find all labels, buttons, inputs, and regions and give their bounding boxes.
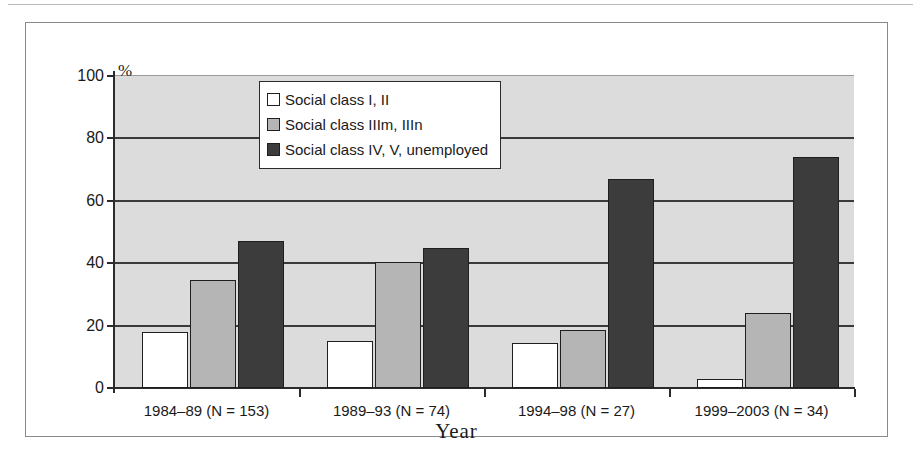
- chart-legend: Social class I, IISocial class IIIm, III…: [259, 81, 501, 169]
- y-tick-mark-0: [107, 387, 114, 389]
- x-group-label-0: 1984–89 (N = 153): [114, 402, 299, 419]
- y-tick-label-40: 40: [62, 255, 104, 271]
- gridline-100: [114, 75, 854, 76]
- bar-g0-s2: [238, 241, 284, 388]
- y-tick-mark-100: [107, 75, 114, 77]
- bar-g3-s0: [697, 379, 743, 388]
- bar-g1-s0: [327, 341, 373, 388]
- bar-g1-s1: [375, 262, 421, 388]
- bar-g3-s1: [745, 313, 791, 388]
- x-group-label-3: 1999–2003 (N = 34): [669, 402, 854, 419]
- swatch-white-icon: [267, 93, 280, 106]
- bar-g1-s2: [423, 248, 469, 388]
- y-tick-label-wrap-40: 40: [46, 255, 104, 271]
- y-tick-mark-80: [107, 137, 114, 139]
- legend-row-1: Social class IIIm, IIIn: [267, 112, 493, 137]
- legend-row-0: Social class I, II: [267, 87, 493, 112]
- x-axis-title: Year: [26, 419, 887, 444]
- y-tick-mark-40: [107, 262, 114, 264]
- legend-row-2: Social class IV, V, unemployed: [267, 137, 493, 162]
- swatch-dark-icon: [267, 143, 280, 156]
- y-tick-label-wrap-80: 80: [46, 130, 104, 146]
- bar-g2-s1: [560, 330, 606, 388]
- x-tick-2: [484, 389, 486, 397]
- gridline-40: [114, 262, 854, 264]
- x-tick-1: [299, 389, 301, 397]
- bar-g0-s0: [142, 332, 188, 388]
- swatch-gray-icon: [267, 118, 280, 131]
- legend-label-2: Social class IV, V, unemployed: [285, 141, 488, 158]
- y-tick-label-20: 20: [62, 318, 104, 334]
- x-tick-3: [669, 389, 671, 397]
- y-tick-label-100: 100: [62, 68, 104, 84]
- y-tick-label-0: 0: [62, 380, 104, 396]
- y-tick-label-wrap-60: 60: [46, 193, 104, 209]
- figure-frame: % 100806040200 1984–89 (N = 153)1989–93 …: [25, 22, 888, 437]
- x-group-label-1: 1989–93 (N = 74): [299, 402, 484, 419]
- legend-label-0: Social class I, II: [285, 91, 389, 108]
- gridline-60: [114, 200, 854, 202]
- y-tick-label-wrap-20: 20: [46, 318, 104, 334]
- bar-g2-s2: [608, 179, 654, 388]
- x-group-label-2: 1994–98 (N = 27): [484, 402, 669, 419]
- y-axis-unit-label: %: [118, 61, 132, 81]
- y-tick-label-wrap-0: 0: [46, 380, 104, 396]
- legend-label-1: Social class IIIm, IIIn: [285, 116, 423, 133]
- y-tick-label-60: 60: [62, 193, 104, 209]
- figure-page: % 100806040200 1984–89 (N = 153)1989–93 …: [0, 0, 923, 459]
- y-tick-label-wrap-100: 100: [46, 68, 104, 84]
- bar-g2-s0: [512, 343, 558, 388]
- y-tick-mark-20: [107, 325, 114, 327]
- y-tick-label-80: 80: [62, 130, 104, 146]
- bar-g3-s2: [793, 157, 839, 388]
- y-axis-line: [113, 71, 115, 393]
- page-top-rule: [8, 4, 913, 5]
- bar-g0-s1: [190, 280, 236, 388]
- y-tick-mark-60: [107, 200, 114, 202]
- x-tick-end: [854, 389, 856, 397]
